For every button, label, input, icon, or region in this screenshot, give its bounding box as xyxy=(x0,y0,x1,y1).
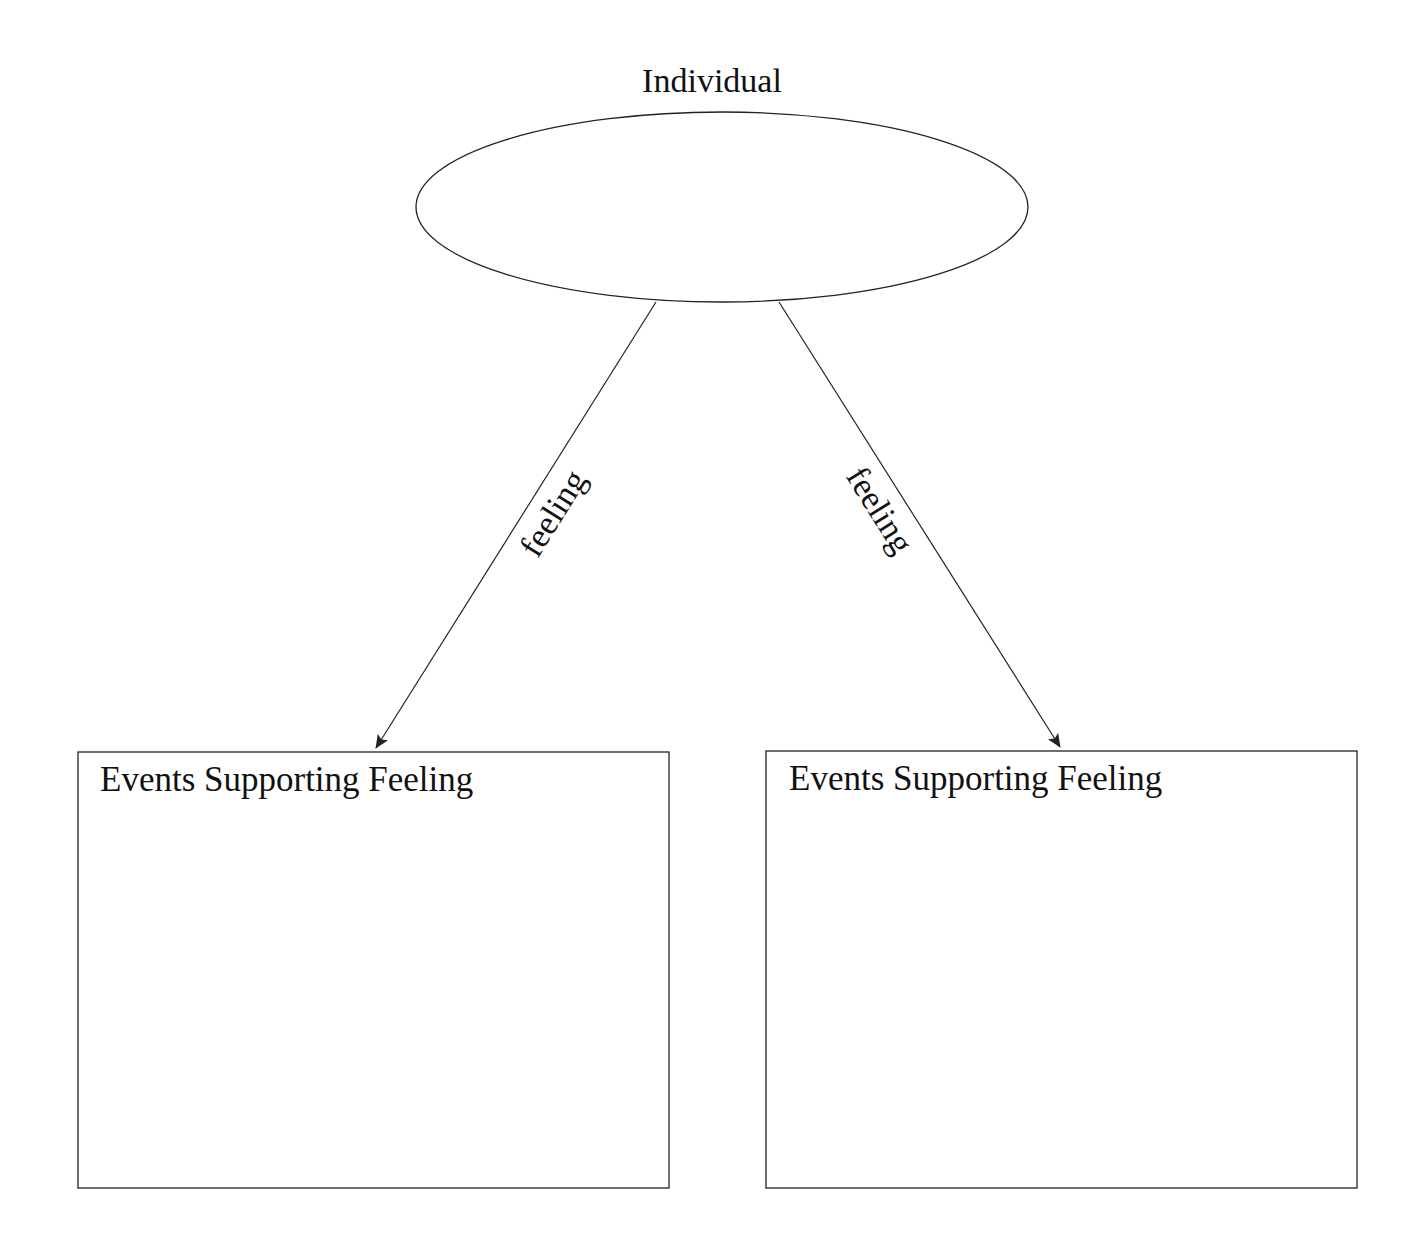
edge-right-label: feeling xyxy=(839,460,920,560)
edge-left-arrow xyxy=(376,302,656,748)
right-events-box xyxy=(766,751,1357,1188)
left-box-title: Events Supporting Feeling xyxy=(100,760,473,799)
edge-left-label: feeling xyxy=(512,463,593,563)
root-label: Individual xyxy=(642,62,782,99)
diagram-canvas: Individual feeling feeling Events Suppor… xyxy=(0,0,1423,1234)
edge-right-arrow xyxy=(779,302,1060,747)
right-box-title: Events Supporting Feeling xyxy=(789,759,1162,798)
left-events-box xyxy=(78,752,669,1188)
root-ellipse xyxy=(416,112,1028,302)
